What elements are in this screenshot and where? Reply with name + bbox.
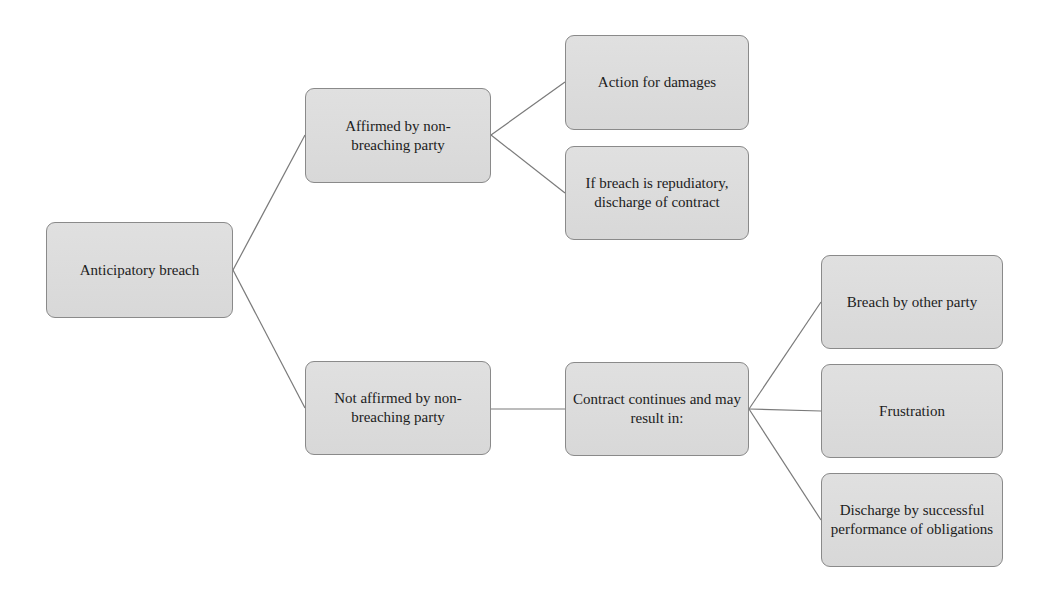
edge-root-affirmed: [233, 135, 305, 270]
node-label: If breach is repudiatory, discharge of c…: [578, 174, 736, 212]
node-breach-by-other-party: Breach by other party: [821, 255, 1003, 349]
node-label: Breach by other party: [847, 293, 977, 312]
edge-root-not-affirmed: [233, 270, 305, 408]
node-action-for-damages: Action for damages: [565, 35, 749, 130]
node-label: Anticipatory breach: [80, 261, 200, 280]
node-anticipatory-breach: Anticipatory breach: [46, 222, 233, 318]
node-label: Action for damages: [598, 73, 716, 92]
anticipatory-breach-diagram: Anticipatory breach Affirmed by non-brea…: [0, 0, 1052, 589]
edge-contract-discharge: [749, 409, 821, 520]
edge-affirmed-repudiatory: [491, 135, 565, 193]
node-label: Affirmed by non-breaching party: [328, 117, 468, 155]
node-not-affirmed: Not affirmed by non-breaching party: [305, 361, 491, 455]
node-label: Not affirmed by non-breaching party: [320, 389, 476, 427]
edge-contract-frustration: [749, 409, 821, 411]
node-label: Contract continues and may result in:: [572, 390, 742, 428]
edge-contract-breach-other: [749, 302, 821, 409]
node-label: Frustration: [879, 402, 945, 421]
node-frustration: Frustration: [821, 364, 1003, 458]
node-affirmed: Affirmed by non-breaching party: [305, 88, 491, 183]
node-discharge-performance: Discharge by successful performance of o…: [821, 473, 1003, 567]
node-contract-continues: Contract continues and may result in:: [565, 362, 749, 456]
node-label: Discharge by successful performance of o…: [825, 501, 999, 539]
edge-affirmed-action-damages: [491, 82, 565, 135]
node-repudiatory-discharge: If breach is repudiatory, discharge of c…: [565, 146, 749, 240]
